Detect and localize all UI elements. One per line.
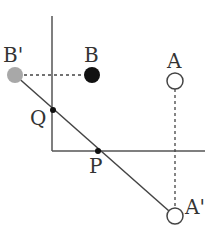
label-b-prime: B' (3, 43, 23, 67)
point-a (167, 73, 183, 89)
point-b (84, 67, 100, 83)
line-b-prime-to-a-prime (15, 75, 169, 211)
reflection-diagram: B' B A A' Q P (0, 0, 219, 243)
label-q: Q (30, 106, 46, 130)
label-a: A (166, 49, 182, 73)
point-b-prime (7, 67, 23, 83)
label-a-prime: A' (184, 195, 205, 219)
point-a-prime (167, 208, 183, 224)
label-b: B (84, 43, 99, 67)
point-q (50, 107, 56, 113)
label-p: P (89, 154, 102, 178)
